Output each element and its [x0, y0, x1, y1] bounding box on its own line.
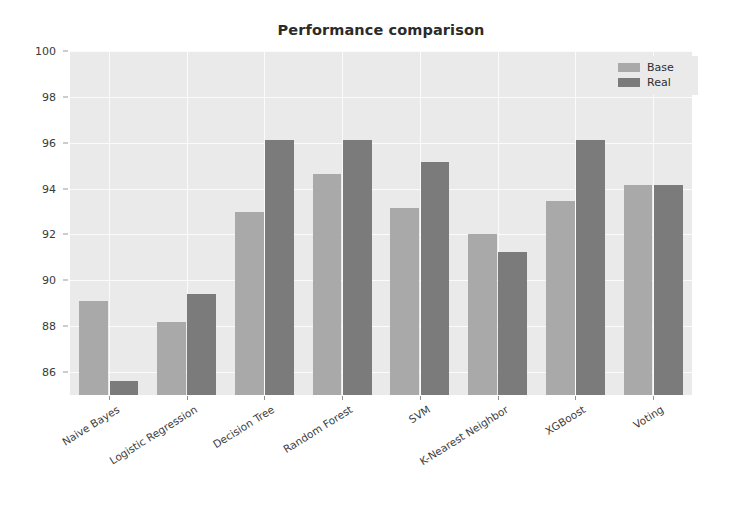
legend-label-base: Base	[647, 62, 674, 73]
bar-base-6	[546, 201, 575, 395]
x-tick-label-3: Random Forest	[281, 403, 354, 455]
legend-label-real: Real	[647, 77, 671, 88]
y-tick-mark	[63, 96, 68, 97]
y-gridline	[70, 97, 692, 98]
y-tick-label: 86	[42, 366, 56, 379]
bar-real-6	[576, 140, 605, 395]
x-tick-label-2: Decision Tree	[211, 403, 277, 450]
bar-real-3	[343, 140, 372, 395]
bar-base-4	[390, 208, 419, 395]
x-tick-mark	[264, 396, 265, 400]
x-tick-label-4: SVM	[406, 403, 432, 425]
x-tick-mark	[109, 396, 110, 400]
legend-swatch-real-icon	[618, 78, 640, 87]
y-tick-label: 88	[42, 320, 56, 333]
chart-figure: Performance comparison 86889092949698100…	[0, 0, 732, 521]
x-tick-mark	[575, 396, 576, 400]
y-tick-label: 92	[42, 228, 56, 241]
plot-area	[70, 51, 692, 395]
bar-real-5	[498, 252, 527, 395]
bar-real-2	[265, 140, 294, 395]
bar-base-2	[235, 212, 264, 395]
y-gridline	[70, 51, 692, 52]
bar-base-7	[624, 185, 653, 395]
x-tick-label-6: XGBoost	[543, 403, 587, 437]
y-tick-label: 96	[42, 136, 56, 149]
y-tick-label: 98	[42, 90, 56, 103]
chart-legend: Base Real	[612, 56, 698, 95]
bar-real-7	[654, 185, 683, 395]
y-tick-mark	[63, 280, 68, 281]
x-tick-mark	[187, 396, 188, 400]
y-tick-mark	[63, 51, 68, 52]
x-tick-mark	[420, 396, 421, 400]
x-gridline	[109, 51, 110, 395]
x-tick-mark	[653, 396, 654, 400]
legend-item-real: Real	[618, 75, 692, 90]
x-tick-mark	[498, 396, 499, 400]
y-tick-label: 94	[42, 182, 56, 195]
bar-base-1	[157, 322, 186, 395]
y-tick-mark	[63, 372, 68, 373]
bar-real-1	[187, 294, 216, 395]
bar-real-4	[421, 162, 450, 395]
y-tick-mark	[63, 326, 68, 327]
y-tick-mark	[63, 142, 68, 143]
bar-real-0	[110, 381, 139, 395]
y-tick-mark	[63, 188, 68, 189]
legend-swatch-base-icon	[618, 63, 640, 72]
x-tick-mark	[342, 396, 343, 400]
x-tick-label-0: Naive Bayes	[60, 403, 121, 448]
bar-base-5	[468, 234, 497, 395]
chart-title: Performance comparison	[70, 22, 692, 38]
x-tick-label-7: Voting	[631, 403, 665, 431]
legend-item-base: Base	[618, 60, 692, 75]
bar-base-3	[313, 174, 342, 395]
y-tick-label: 90	[42, 274, 56, 287]
y-tick-mark	[63, 234, 68, 235]
bar-base-0	[79, 301, 108, 395]
y-tick-label: 100	[35, 45, 56, 58]
